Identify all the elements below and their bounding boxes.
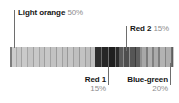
callout-blue-green: Blue-green 20% <box>117 75 168 93</box>
callout-light-orange: Light orange 50% <box>18 8 83 17</box>
callout-light-orange-percent: 50% <box>67 8 83 17</box>
callout-red-1-name: Red 1 <box>85 75 106 84</box>
leader-line-red-2 <box>126 26 127 51</box>
callout-red-1-percent: 15% <box>68 84 106 93</box>
leader-line-red-1 <box>108 63 109 85</box>
callout-red-2: Red 2 15% <box>130 24 169 33</box>
callout-blue-green-percent: 20% <box>117 84 168 93</box>
callout-blue-green-name: Blue-green <box>127 75 168 84</box>
strip-segment <box>172 47 174 67</box>
color-distribution-chart: Light orange 50% Red 2 15% Red 1 15% Blu… <box>0 0 179 103</box>
leader-line-blue-green <box>170 63 171 85</box>
callout-red-2-name: Red 2 <box>130 24 151 33</box>
callout-red-2-percent: 15% <box>153 24 169 33</box>
leader-line-light-orange <box>14 10 15 48</box>
callout-red-1: Red 1 15% <box>68 75 106 93</box>
callout-light-orange-name: Light orange <box>18 8 65 17</box>
color-distribution-strip <box>10 47 174 67</box>
